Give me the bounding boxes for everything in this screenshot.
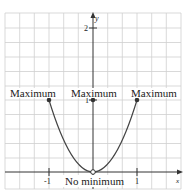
open-point-origin (91, 170, 96, 175)
maximum-label-center: Maximum (71, 87, 117, 99)
maximum-label-right: Maximum (131, 87, 177, 99)
x-tick-1: 1 (135, 177, 139, 186)
graph: y x 2 1 -1 1 Maximum Maximum Maximum No … (0, 0, 187, 193)
no-minimum-label: No minimum (65, 175, 124, 187)
x-axis-label: x (175, 177, 180, 185)
maximum-label-left: Maximum (10, 87, 56, 99)
y-axis-label: y (94, 14, 99, 23)
y-tick-2: 2 (84, 24, 88, 33)
x-arrow-icon (177, 170, 183, 175)
x-tick-neg1: -1 (44, 177, 51, 186)
